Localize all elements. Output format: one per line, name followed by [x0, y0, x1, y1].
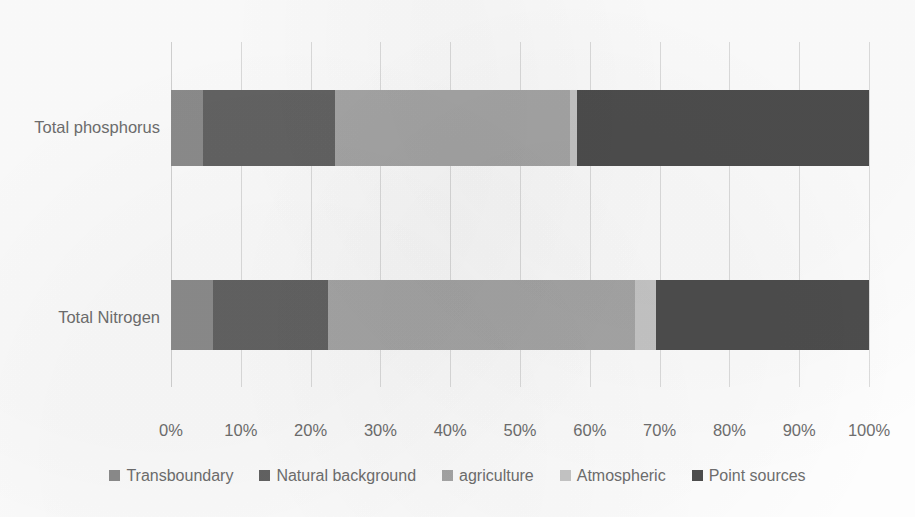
legend-item-transboundary[interactable]: Transboundary — [109, 468, 233, 484]
legend-item-atmospheric[interactable]: Atmospheric — [560, 468, 666, 484]
x-tick-label: 90% — [783, 421, 816, 440]
bar-segment-transboundary[interactable] — [171, 90, 203, 166]
stacked-bar-chart: Total phosphorusTotal Nitrogen 0%10%20%3… — [0, 0, 915, 517]
bar-segment-natural-background[interactable] — [203, 90, 335, 166]
y-axis-label-total-nitrogen: Total Nitrogen — [0, 308, 160, 327]
y-axis-label-total-phosphorus: Total phosphorus — [0, 118, 160, 137]
bar-row — [171, 90, 869, 166]
legend-swatch-icon — [109, 470, 120, 481]
legend-label: Natural background — [276, 468, 416, 484]
gridline-100 — [869, 42, 870, 387]
bar-segment-point-sources[interactable] — [577, 90, 869, 166]
bar-segment-atmospheric[interactable] — [570, 90, 577, 166]
x-tick-label: 50% — [503, 421, 536, 440]
legend-label: Point sources — [709, 468, 806, 484]
bar-segment-point-sources[interactable] — [656, 280, 869, 350]
plot-area — [171, 42, 869, 387]
legend-label: Atmospheric — [577, 468, 666, 484]
legend-swatch-icon — [259, 470, 270, 481]
bar-segment-transboundary[interactable] — [171, 280, 213, 350]
x-tick-label: 20% — [294, 421, 327, 440]
x-tick-label: 100% — [848, 421, 890, 440]
legend-item-natural-background[interactable]: Natural background — [259, 468, 416, 484]
bar-segment-agriculture[interactable] — [335, 90, 570, 166]
bar-segment-agriculture[interactable] — [328, 280, 635, 350]
chart-legend: TransboundaryNatural backgroundagricultu… — [0, 468, 915, 484]
bar-segment-natural-background[interactable] — [213, 280, 328, 350]
x-tick-label: 30% — [364, 421, 397, 440]
x-tick-label: 80% — [713, 421, 746, 440]
legend-item-agriculture[interactable]: agriculture — [442, 468, 534, 484]
x-tick-label: 60% — [573, 421, 606, 440]
legend-swatch-icon — [692, 470, 703, 481]
x-tick-label: 0% — [159, 421, 183, 440]
x-tick-label: 70% — [643, 421, 676, 440]
legend-item-point-sources[interactable]: Point sources — [692, 468, 806, 484]
bar-segment-atmospheric[interactable] — [635, 280, 656, 350]
legend-swatch-icon — [560, 470, 571, 481]
x-tick-label: 10% — [224, 421, 257, 440]
legend-swatch-icon — [442, 470, 453, 481]
legend-label: agriculture — [459, 468, 534, 484]
legend-label: Transboundary — [126, 468, 233, 484]
bar-row — [171, 280, 869, 350]
x-tick-label: 40% — [434, 421, 467, 440]
